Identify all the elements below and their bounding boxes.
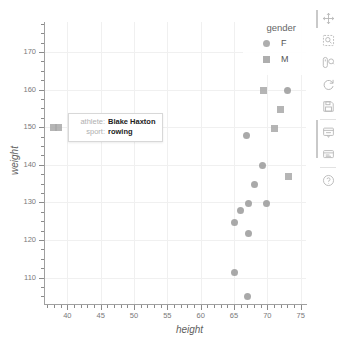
x-tick-minor [154, 305, 155, 308]
box-zoom-tool-button[interactable] [318, 30, 338, 50]
x-tick [267, 305, 268, 310]
y-tick [39, 127, 44, 128]
tooltip-value-sport: rowing [108, 127, 133, 137]
data-point-m[interactable] [277, 106, 284, 113]
x-tick-label: 75 [289, 311, 313, 320]
toolbar-divider-2 [320, 167, 336, 168]
y-tick-minor [41, 80, 44, 81]
x-tick-label: 45 [89, 311, 113, 320]
hover-icon [322, 126, 335, 139]
gridline-vertical [134, 22, 135, 304]
x-tick-minor [127, 305, 128, 308]
x-tick-minor [254, 305, 255, 308]
y-tick-label: 170 [12, 47, 36, 56]
gridline-vertical [167, 22, 168, 304]
save-tool-button[interactable] [318, 96, 338, 116]
y-tick [39, 202, 44, 203]
tooltip-key-athlete: athlete: [74, 117, 105, 127]
x-tick-label: 65 [222, 311, 246, 320]
y-tick-minor [41, 268, 44, 269]
legend-swatch-circle-icon [263, 40, 270, 47]
x-tick-minor [174, 305, 175, 308]
x-tick-label: 40 [55, 311, 79, 320]
x-tick-minor [74, 305, 75, 308]
data-point-f[interactable] [284, 87, 291, 94]
legend-label-m: M [281, 54, 289, 64]
gridline-vertical [67, 22, 68, 304]
y-axis-line [44, 22, 45, 305]
legend: gender F M [243, 18, 306, 75]
x-tick-minor [54, 305, 55, 308]
data-point-f[interactable] [231, 269, 238, 276]
legend-swatch-square-icon [263, 56, 270, 63]
data-point-f[interactable] [263, 200, 270, 207]
tooltip-key-sport: sport: [74, 127, 105, 137]
help-icon [322, 174, 335, 187]
data-point-m[interactable] [260, 87, 267, 94]
y-tick-minor [41, 33, 44, 34]
y-tick-minor [41, 231, 44, 232]
data-point-m[interactable] [285, 173, 292, 180]
y-tick [39, 90, 44, 91]
tooltip-row-sport: sport: rowing [74, 127, 156, 137]
x-tick-minor [94, 305, 95, 308]
y-tick [39, 278, 44, 279]
x-tick-minor [141, 305, 142, 308]
reset-tool-button[interactable] [318, 74, 338, 94]
y-axis-title: weight [9, 131, 20, 191]
data-point-f[interactable] [251, 181, 258, 188]
legend-title: gender [247, 22, 302, 33]
x-tick-label: 55 [155, 311, 179, 320]
x-tick-minor [47, 305, 48, 308]
y-tick-minor [41, 118, 44, 119]
x-tick-minor [207, 305, 208, 308]
hover-tool-button[interactable] [318, 122, 338, 142]
x-tick-minor [87, 305, 88, 308]
y-tick-minor [41, 43, 44, 44]
scatter-plot-figure: 1101201301401501601704045505560657075 we… [0, 0, 343, 348]
data-point-f[interactable] [243, 132, 250, 139]
pan-tool-button[interactable] [318, 8, 338, 28]
hover-tooltip: athlete: Blake Haxton sport: rowing [68, 113, 163, 142]
data-point-m[interactable] [55, 124, 62, 131]
x-tick-minor [161, 305, 162, 308]
data-point-f[interactable] [245, 230, 252, 237]
x-tick [167, 305, 168, 310]
data-point-f[interactable] [244, 293, 251, 300]
y-tick-label: 120 [12, 235, 36, 244]
y-tick-minor [41, 221, 44, 222]
x-tick-label: 70 [255, 311, 279, 320]
y-tick-minor [41, 99, 44, 100]
data-point-f[interactable] [245, 200, 252, 207]
x-tick [101, 305, 102, 310]
x-tick [201, 305, 202, 310]
x-tick-minor [194, 305, 195, 308]
x-axis-title: height [0, 324, 343, 335]
y-tick [39, 165, 44, 166]
gridline-horizontal [44, 240, 306, 241]
y-tick [39, 240, 44, 241]
wheel-zoom-tool-button[interactable] [318, 52, 338, 72]
y-tick-minor [41, 137, 44, 138]
help-tool-button[interactable] [318, 170, 338, 190]
toolbar-rail-bottom [316, 120, 318, 158]
x-tick-minor [261, 305, 262, 308]
y-tick-minor [41, 259, 44, 260]
legend-item-f[interactable]: F [247, 38, 302, 48]
data-point-f[interactable] [231, 219, 238, 226]
gridline-horizontal [44, 278, 306, 279]
inspect-tool-button[interactable] [318, 144, 338, 164]
gridline-vertical [234, 22, 235, 304]
plot-toolbar[interactable] [315, 8, 341, 192]
data-point-m[interactable] [271, 125, 278, 132]
x-tick-minor [274, 305, 275, 308]
y-tick-label: 130 [12, 197, 36, 206]
gridline-vertical [101, 22, 102, 304]
x-tick-minor [241, 305, 242, 308]
save-icon [322, 100, 335, 113]
legend-label-f: F [281, 38, 287, 48]
y-tick-minor [41, 287, 44, 288]
x-tick-label: 60 [189, 311, 213, 320]
legend-item-m[interactable]: M [247, 54, 302, 64]
x-tick-minor [247, 305, 248, 308]
